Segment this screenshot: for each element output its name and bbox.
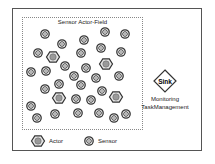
sensor-node-icon bbox=[41, 85, 49, 93]
sensor-node-icon bbox=[101, 28, 109, 36]
sensor-node-icon bbox=[82, 64, 90, 72]
sensor-node-icon bbox=[117, 48, 125, 56]
sensor-node-icon bbox=[51, 110, 59, 118]
sensor-node-icon bbox=[55, 80, 63, 88]
sensor-node-icon bbox=[92, 74, 100, 82]
sensor-node-icon bbox=[97, 44, 105, 52]
actor-node-icon bbox=[47, 52, 60, 62]
sensor-node-icon bbox=[41, 30, 49, 38]
sensor-node-icon bbox=[58, 40, 66, 48]
sink-icon: Sink bbox=[154, 70, 176, 92]
sensor-node-icon bbox=[33, 114, 41, 122]
sensor-node-icon bbox=[74, 109, 82, 117]
sensor-node-icon bbox=[61, 62, 69, 70]
svg-text:Sink: Sink bbox=[158, 78, 172, 85]
sensor-node-icon bbox=[77, 49, 85, 57]
legend-sensor-label: Sensor bbox=[98, 138, 117, 144]
sensor-node-icon bbox=[115, 72, 123, 80]
sensor-node-icon bbox=[110, 114, 118, 122]
sink-caption-2: TaskManagement bbox=[0, 104, 215, 110]
sensor-node-icon bbox=[27, 68, 35, 76]
legend-sensor-icon bbox=[85, 137, 93, 145]
sensor-node-icon bbox=[98, 87, 106, 95]
sensor-node-icon bbox=[121, 30, 129, 38]
sensor-node-icon bbox=[95, 109, 103, 117]
sensor-node-icon bbox=[77, 81, 85, 89]
sensor-node-icon bbox=[42, 67, 50, 75]
sink-caption-1: Monitoring bbox=[0, 96, 215, 102]
legend-actor-label: Actor bbox=[49, 138, 63, 144]
legend-actor-icon bbox=[32, 136, 45, 146]
sensor-node-icon bbox=[70, 72, 78, 80]
sensor-node-icon bbox=[34, 49, 42, 57]
sensor-node-icon bbox=[122, 110, 130, 118]
sensor-node-icon bbox=[80, 36, 88, 44]
actor-node-icon bbox=[100, 59, 113, 69]
